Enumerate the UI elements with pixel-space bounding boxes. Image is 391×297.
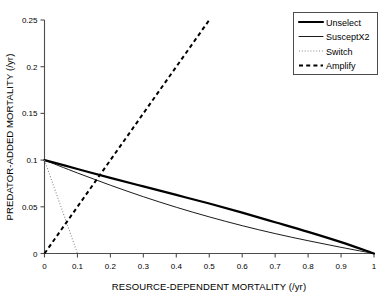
y-tick-label: 0 xyxy=(33,250,38,259)
y-tick-label: 0.25 xyxy=(22,16,38,25)
x-tick-label: 0.9 xyxy=(335,262,347,271)
legend-label-amplify: Amplify xyxy=(326,61,356,71)
chart-plot-area: 00.050.10.150.20.25 00.10.20.30.40.50.60… xyxy=(0,0,391,297)
legend-label-switch: Switch xyxy=(326,47,353,57)
y-axis-ticks: 00.050.10.150.20.25 xyxy=(22,16,45,259)
x-tick-label: 0.2 xyxy=(105,262,117,271)
x-tick-label: 0.6 xyxy=(237,262,249,271)
x-tick-label: 0.7 xyxy=(270,262,282,271)
y-tick-label: 0.05 xyxy=(22,203,38,212)
y-axis-title: PREDATOR-ADDED MORTALITY (/yr) xyxy=(4,54,15,221)
x-axis-title: RESOURCE-DEPENDENT MORTALITY (/yr) xyxy=(112,281,306,292)
x-tick-label: 0.4 xyxy=(171,262,183,271)
chart-legend[interactable]: UnselectSusceptX2SwitchAmplify xyxy=(294,13,378,75)
y-tick-label: 0.1 xyxy=(26,156,38,165)
series-line-unselect xyxy=(45,160,375,253)
x-tick-label: 0 xyxy=(42,262,47,271)
series-line-switch xyxy=(45,160,78,253)
chart-figure: 00.050.10.150.20.25 00.10.20.30.40.50.60… xyxy=(0,0,391,297)
x-tick-label: 0.5 xyxy=(204,262,216,271)
x-tick-label: 1 xyxy=(372,262,377,271)
x-tick-label: 0.1 xyxy=(72,262,84,271)
legend-label-unselect: Unselect xyxy=(326,18,362,28)
x-tick-label: 0.8 xyxy=(303,262,315,271)
x-tick-label: 0.3 xyxy=(138,262,150,271)
legend-label-susceptx2: SusceptX2 xyxy=(326,32,370,42)
series-line-amplify xyxy=(45,20,210,254)
x-axis-ticks: 00.10.20.30.40.50.60.70.80.91 xyxy=(42,254,377,271)
y-tick-label: 0.2 xyxy=(26,63,38,72)
y-tick-label: 0.15 xyxy=(22,109,38,118)
